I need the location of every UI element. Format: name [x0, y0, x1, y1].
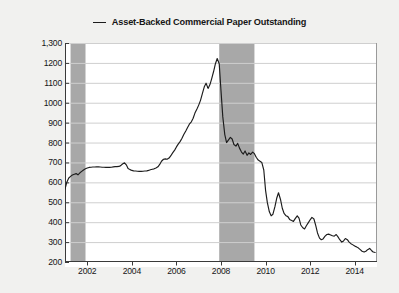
y-tick-label-1300: 1,300: [28, 38, 62, 48]
y-tick-label-700: 700: [28, 157, 62, 167]
y-tick-label-600: 600: [28, 177, 62, 187]
chart-legend: Asset-Backed Commercial Paper Outstandin…: [0, 14, 399, 30]
x-axis-tick-labels: 2002200420062008201020122014: [65, 266, 377, 278]
plot-area: [65, 43, 377, 267]
chart-figure: Asset-Backed Commercial Paper Outstandin…: [0, 0, 399, 293]
y-tick-label-1000: 1000: [28, 98, 62, 108]
y-tick-label-900: 900: [28, 118, 62, 128]
y-tick-label-200: 200: [28, 257, 62, 267]
plot-svg: [65, 43, 377, 267]
y-tick-label-800: 800: [28, 138, 62, 148]
legend-label: Asset-Backed Commercial Paper Outstandin…: [112, 17, 307, 27]
recession-band-recession-2001: [71, 43, 86, 262]
x-tick-label-2010: 2010: [246, 266, 286, 276]
y-tick-label-1100: 1100: [28, 78, 62, 88]
y-tick-label-400: 400: [28, 217, 62, 227]
y-axis-title: (Billions of Dollars): [12, 0, 26, 28]
x-tick-label-2002: 2002: [67, 266, 107, 276]
y-axis-tick-labels: 1,30012001100100090080070060050040030020…: [24, 43, 62, 262]
x-tick-label-2008: 2008: [201, 266, 241, 276]
x-tick-label-2004: 2004: [112, 266, 152, 276]
x-tick-label-2006: 2006: [156, 266, 196, 276]
y-tick-label-500: 500: [28, 197, 62, 207]
recession-bands: [71, 43, 255, 262]
y-tick-label-300: 300: [28, 237, 62, 247]
y-tick-label-1200: 1200: [28, 58, 62, 68]
x-tick-label-2014: 2014: [335, 266, 375, 276]
x-tick-label-2012: 2012: [290, 266, 330, 276]
legend-line-marker-icon: [93, 22, 106, 23]
